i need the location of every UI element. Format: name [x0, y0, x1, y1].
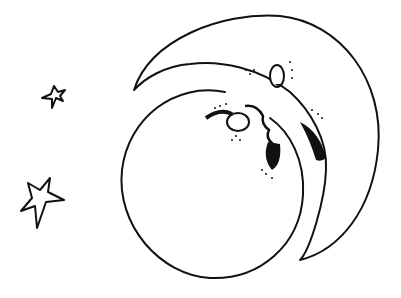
- full-moon-icon: [121, 90, 303, 278]
- crescent-outer-icon: [134, 16, 379, 260]
- moon-drawing: [0, 0, 401, 298]
- upper-eye-icon: [270, 65, 284, 87]
- small-star-icon: [42, 86, 65, 108]
- moon-illustration: Crescent moon with face beside full moon…: [0, 0, 401, 298]
- mouth-icon: [266, 142, 281, 170]
- moon-face: [206, 61, 326, 179]
- lower-eye-icon: [227, 113, 249, 131]
- large-star-icon: [21, 178, 64, 228]
